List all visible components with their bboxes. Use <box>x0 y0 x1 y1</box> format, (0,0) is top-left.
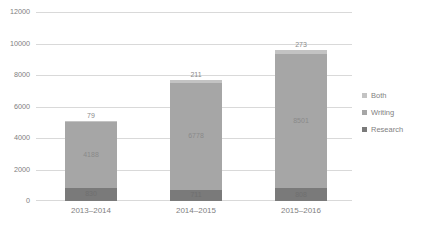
y-axis: 12000 10000 8000 6000 4000 2000 0 <box>0 0 34 228</box>
legend-swatch-icon <box>362 110 367 115</box>
bar-segment-research[interactable]: 808 <box>275 188 327 201</box>
legend-label: Research <box>371 125 403 134</box>
bar-value-label-writing: 4188 <box>65 151 117 159</box>
y-tick-label: 4000 <box>14 134 30 142</box>
bar-group-2013-2014[interactable]: 830 4188 79 <box>65 121 117 201</box>
bar-value-label-writing: 6778 <box>170 132 222 140</box>
bar-value-label-research: 711 <box>170 191 222 199</box>
legend-swatch-icon <box>362 93 367 98</box>
legend-item-writing[interactable]: Writing <box>362 105 422 119</box>
bar-value-label-both: 273 <box>275 41 327 49</box>
bar-value-label-research: 808 <box>275 191 327 199</box>
legend-item-research[interactable]: Research <box>362 122 422 136</box>
bar-group-2015-2016[interactable]: 808 8501 273 <box>275 50 327 201</box>
plot-area: 830 4188 79 711 6778 211 8 <box>36 12 352 201</box>
y-tick-label: 0 <box>26 197 30 205</box>
legend-label: Writing <box>371 108 394 117</box>
legend-label: Both <box>371 91 386 100</box>
bar-group-2014-2015[interactable]: 711 6778 211 <box>170 80 222 201</box>
y-tick-label: 12000 <box>10 8 30 16</box>
x-tick-label-2013-2014: 2013–2014 <box>46 206 136 216</box>
chart-container: 12000 10000 8000 6000 4000 2000 0 830 41… <box>0 0 423 228</box>
bar-segment-both[interactable]: 79 <box>65 121 117 122</box>
y-tick-label: 6000 <box>14 103 30 111</box>
bar-segment-both[interactable]: 211 <box>170 80 222 83</box>
y-tick-label: 10000 <box>10 40 30 48</box>
bar-segment-research[interactable]: 711 <box>170 190 222 201</box>
bar-value-label-both: 79 <box>65 112 117 120</box>
legend-item-both[interactable]: Both <box>362 88 422 102</box>
legend: Both Writing Research <box>362 88 422 139</box>
x-tick-label-2015-2016: 2015–2016 <box>256 206 346 216</box>
bar-segment-writing[interactable]: 4188 <box>65 122 117 188</box>
bar-segment-research[interactable]: 830 <box>65 188 117 201</box>
bar-segment-writing[interactable]: 6778 <box>170 83 222 190</box>
bar-segment-writing[interactable]: 8501 <box>275 54 327 188</box>
x-tick-label-2014-2015: 2014–2015 <box>151 206 241 216</box>
gridline-12000 <box>36 12 352 13</box>
x-axis: 2013–2014 2014–2015 2015–2016 <box>36 203 352 219</box>
gridline-10000 <box>36 44 352 45</box>
bar-segment-both[interactable]: 273 <box>275 50 327 54</box>
legend-swatch-icon <box>362 127 367 132</box>
bar-value-label-research: 830 <box>65 190 117 198</box>
bar-value-label-writing: 8501 <box>275 117 327 125</box>
y-tick-label: 8000 <box>14 71 30 79</box>
y-tick-label: 2000 <box>14 166 30 174</box>
